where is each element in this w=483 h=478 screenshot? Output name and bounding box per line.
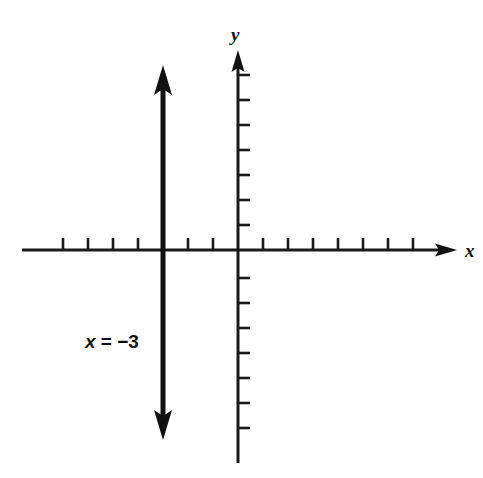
x-axis-group: x xyxy=(22,240,475,261)
equation-relation: = xyxy=(101,331,112,352)
graph-line-x-equals-negative-3 xyxy=(154,65,172,440)
equation-value: −3 xyxy=(117,331,139,352)
equation-annotation: x = −3 xyxy=(84,331,139,352)
coordinate-plane-figure: x y xyxy=(0,0,483,478)
y-axis-group: y xyxy=(229,24,245,463)
x-axis-label: x xyxy=(464,240,475,261)
y-axis-label: y xyxy=(229,24,240,45)
graph-svg: x y xyxy=(0,0,483,478)
